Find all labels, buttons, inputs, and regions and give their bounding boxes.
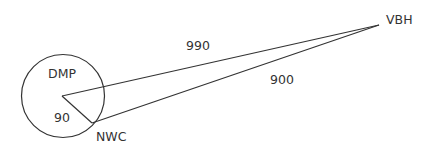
edge-label-nwc-vbh: 900: [270, 72, 294, 87]
edge-label-dmp-vbh: 990: [186, 38, 210, 53]
edge-label-dmp-nwc: 90: [54, 110, 70, 125]
edge-dmp-vbh: [62, 25, 379, 96]
node-label-nwc: NWC: [96, 129, 127, 144]
node-label-vbh: VBH: [386, 12, 413, 27]
edge-nwc-vbh: [92, 25, 379, 123]
triangle-diagram: DMP NWC VBH 990 900 90: [0, 0, 431, 151]
node-label-dmp: DMP: [48, 66, 76, 81]
